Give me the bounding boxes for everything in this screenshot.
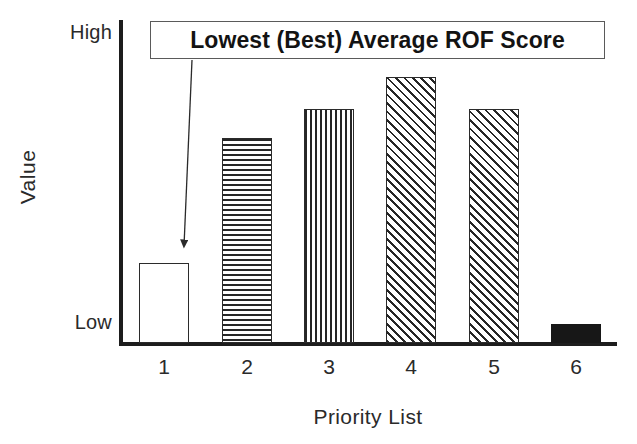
x-axis-tick-6: 6 (546, 355, 606, 379)
bar-priority-1 (139, 263, 189, 343)
callout-box: Lowest (Best) Average ROF Score (150, 21, 605, 59)
x-axis-tick-5: 5 (464, 355, 524, 379)
bar-priority-6 (551, 324, 601, 343)
bar-chart: High Low Value 1 2 3 4 5 6 Priority List… (0, 0, 637, 444)
y-axis-title: Value (17, 122, 39, 232)
bar-priority-4 (386, 77, 436, 343)
y-axis-tick-low: Low (34, 311, 112, 333)
x-axis-tick-1: 1 (134, 355, 194, 379)
callout-label: Lowest (Best) Average ROF Score (190, 27, 565, 54)
x-axis-tick-2: 2 (217, 355, 277, 379)
y-axis-tick-high: High (34, 21, 112, 43)
bar-priority-3 (304, 109, 354, 343)
x-axis-tick-3: 3 (299, 355, 359, 379)
x-axis-line (119, 342, 617, 346)
y-axis-line (119, 20, 123, 346)
bar-priority-5 (469, 109, 519, 343)
x-axis-title: Priority List (119, 405, 617, 429)
x-axis-tick-4: 4 (381, 355, 441, 379)
bar-priority-2 (222, 138, 272, 343)
